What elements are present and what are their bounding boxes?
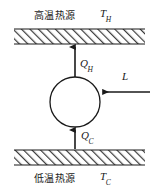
cold-reservoir-label: 低温热源 xyxy=(34,170,75,185)
hot-temp-subscript: H xyxy=(106,15,111,24)
thermodynamic-cycle-diagram: 高温热源 TH 低温热源 TC QH QC L xyxy=(0,0,156,194)
heat-in-cold-label: QC xyxy=(81,129,94,144)
engine-circle xyxy=(50,77,100,127)
diagram-canvas xyxy=(0,0,156,194)
hot-reservoir-temperature-symbol: TH xyxy=(100,7,112,22)
hot-reservoir-band xyxy=(14,29,145,44)
hot-reservoir-label: 高温热源 xyxy=(34,7,75,22)
hot-reservoir-hatch-fill xyxy=(14,29,145,44)
cold-reservoir-hatch-fill xyxy=(14,150,145,165)
cold-reservoir-temperature-symbol: TC xyxy=(100,170,111,185)
work-input-label: L xyxy=(122,70,128,82)
cold-temp-subscript: C xyxy=(106,178,111,187)
qc-subscript: C xyxy=(88,137,93,146)
heat-out-hot-label: QH xyxy=(80,57,93,72)
cold-reservoir-band xyxy=(14,150,145,165)
qh-subscript: H xyxy=(87,65,92,74)
